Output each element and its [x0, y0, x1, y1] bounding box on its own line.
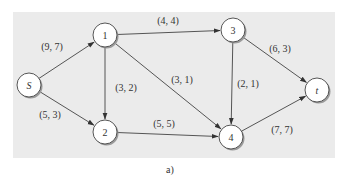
node-label: S — [27, 80, 32, 91]
node-label: 4 — [229, 132, 234, 143]
diagram-canvas: (9, 7)(5, 3)(4, 4)(3, 2)(3, 1)(5, 5)(2, … — [0, 0, 344, 179]
edge-label-S-2: (5, 3) — [39, 109, 61, 121]
edge-label-3-t: (6, 3) — [269, 43, 291, 55]
node-label: t — [316, 85, 319, 96]
edge-label-4-t: (7, 7) — [271, 124, 293, 136]
node-label: 1 — [103, 30, 108, 41]
edge-label-2-4: (5, 5) — [153, 118, 175, 130]
edge-label-1-4: (3, 1) — [171, 74, 193, 86]
figure-caption: a) — [166, 164, 174, 176]
background-panel — [13, 12, 335, 158]
node-label: 2 — [103, 127, 108, 138]
edge-label-1-2: (3, 2) — [115, 82, 137, 94]
edge-label-3-4: (2, 1) — [237, 78, 259, 90]
node-label: 3 — [231, 25, 236, 36]
edge-label-S-1: (9, 7) — [41, 41, 63, 53]
flow-network-diagram: (9, 7)(5, 3)(4, 4)(3, 2)(3, 1)(5, 5)(2, … — [0, 0, 344, 179]
edge-label-1-3: (4, 4) — [157, 15, 179, 27]
